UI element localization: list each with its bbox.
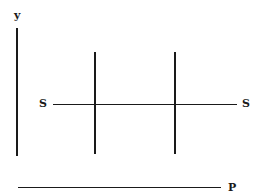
diagram-canvas: y S S P xyxy=(0,0,258,191)
p-axis-label: P xyxy=(228,182,236,191)
s-line-left-label: S xyxy=(39,98,47,109)
vertical-line-1 xyxy=(94,52,96,154)
y-axis-label: y xyxy=(14,10,20,21)
vertical-line-2 xyxy=(174,52,176,154)
s-line-right-label: S xyxy=(242,98,250,109)
y-axis-line xyxy=(16,28,18,156)
s-horizontal-line xyxy=(53,104,237,105)
p-axis-line xyxy=(18,187,221,188)
